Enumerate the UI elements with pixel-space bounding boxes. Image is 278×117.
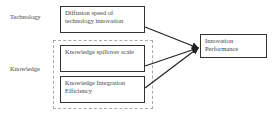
arrow-sign-1: + [159,29,161,34]
arrow-sign-2: + [159,55,161,60]
arrow-sign-3: + [159,70,161,75]
arrows [0,0,278,117]
